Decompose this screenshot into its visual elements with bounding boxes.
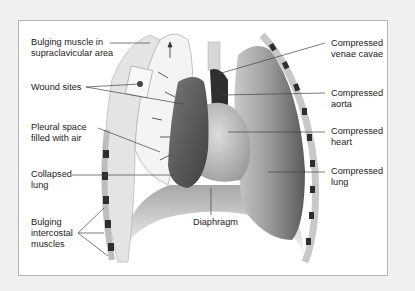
label-compressed-aorta: Compressed aorta xyxy=(331,88,383,110)
label-bulging-muscle: Bulging muscle in supraclavicular area xyxy=(31,37,113,59)
label-bulging-intercostal: Bulging intercostal muscles xyxy=(31,217,73,250)
trachea xyxy=(208,42,220,70)
label-compressed-lung: Compressed lung xyxy=(331,166,383,188)
label-collapsed-lung: Collapsed lung xyxy=(31,169,72,191)
label-compressed-heart: Compressed heart xyxy=(331,126,383,148)
label-diaphragm: Diaphragm xyxy=(193,217,238,228)
label-pleural-space: Pleural space filled with air xyxy=(31,122,87,144)
label-compressed-venae-cavae: Compressed venae cavae xyxy=(331,38,383,60)
label-wound-sites: Wound sites xyxy=(31,82,81,93)
